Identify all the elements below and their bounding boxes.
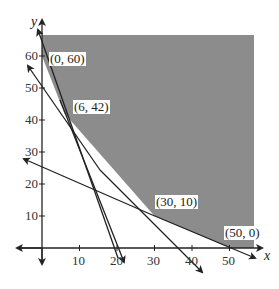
y-tick-40: 40 — [25, 113, 38, 126]
point-label-0-60: (0, 60) — [49, 52, 86, 66]
y-tick-50: 50 — [25, 81, 38, 94]
y-tick-20: 20 — [25, 177, 38, 190]
y-axis-label: y — [31, 14, 37, 30]
x-tick-40: 40 — [185, 254, 198, 267]
x-tick-10: 10 — [72, 254, 85, 267]
point-label-50-0: (50, 0) — [224, 226, 261, 240]
x-tick-50: 50 — [222, 254, 235, 267]
point-label-30-10: (30, 10) — [155, 195, 198, 209]
x-tick-30: 30 — [147, 254, 160, 267]
x-tick-20: 20 — [110, 254, 123, 267]
y-tick-60: 60 — [25, 49, 38, 62]
feasible-region — [42, 35, 254, 248]
y-tick-30: 30 — [25, 145, 38, 158]
chart-plot — [0, 0, 279, 289]
x-axis-label: x — [264, 248, 270, 264]
y-tick-10: 10 — [25, 209, 38, 222]
point-label-6-42: (6, 42) — [73, 100, 110, 114]
